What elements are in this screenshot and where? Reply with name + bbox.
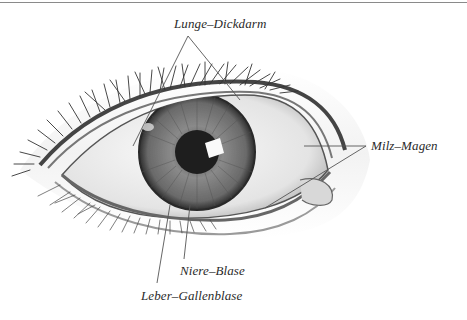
- label-leber-gallenblase: Leber–Gallenblase: [141, 288, 242, 304]
- label-milz-magen: Milz–Magen: [371, 138, 438, 154]
- label-lunge-dickdarm: Lunge–Dickdarm: [174, 16, 266, 32]
- label-niere-blase: Niere–Blase: [180, 263, 245, 279]
